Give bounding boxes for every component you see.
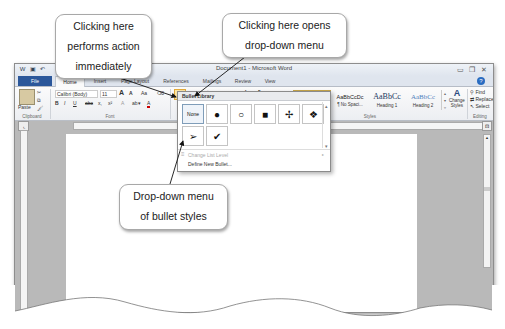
callout-opens-dropdown: Clicking here opens drop-down menu [222,13,347,58]
callout-immediate-action: Clicking here performs action immediatel… [55,14,152,79]
callout-bullet-menu: Drop-down menu of bullet styles [119,184,228,230]
